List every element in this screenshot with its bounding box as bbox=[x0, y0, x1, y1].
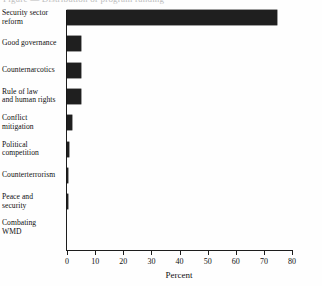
bar-row: Counternarcotics bbox=[0, 63, 322, 78]
category-label-line: WMD bbox=[2, 228, 64, 237]
bar bbox=[67, 89, 81, 104]
category-label: Rule of lawand human rights bbox=[2, 88, 64, 105]
bar bbox=[67, 142, 69, 157]
category-label: Security sectorreform bbox=[2, 9, 64, 26]
bar bbox=[67, 10, 277, 25]
x-tick bbox=[67, 250, 68, 255]
x-tick-label: 30 bbox=[141, 257, 161, 267]
category-label: CombatingWMD bbox=[2, 219, 64, 236]
x-tick bbox=[123, 250, 124, 255]
bar-row: Good governance bbox=[0, 36, 322, 51]
x-tick-label: 40 bbox=[170, 257, 190, 267]
x-tick bbox=[236, 250, 237, 255]
x-tick-label: 70 bbox=[254, 257, 274, 267]
category-label-line: Counterterrorism bbox=[2, 171, 64, 180]
category-label-line: reform bbox=[2, 18, 64, 27]
bar-row: Politicalcompetition bbox=[0, 142, 322, 157]
category-label: Good governance bbox=[2, 39, 64, 48]
x-tick bbox=[264, 250, 265, 255]
x-tick-label: 0 bbox=[57, 257, 77, 267]
x-tick bbox=[208, 250, 209, 255]
bar bbox=[67, 194, 68, 209]
bar-chart-figure: Figure — Distribution of program funding… bbox=[0, 0, 322, 286]
x-tick-label: 20 bbox=[113, 257, 133, 267]
clipped-caption-remnant: Figure — Distribution of program funding bbox=[0, 0, 322, 7]
x-tick-label: 80 bbox=[282, 257, 302, 267]
bar bbox=[67, 63, 81, 78]
category-label-line: security bbox=[2, 202, 64, 211]
x-tick-label: 10 bbox=[85, 257, 105, 267]
bar-row: Counterterrorism bbox=[0, 168, 322, 183]
bar-row: Peace andsecurity bbox=[0, 194, 322, 209]
bar-row: Rule of lawand human rights bbox=[0, 89, 322, 104]
x-tick bbox=[151, 250, 152, 255]
category-label: Politicalcompetition bbox=[2, 141, 64, 158]
x-axis-title: Percent bbox=[66, 270, 292, 281]
category-label-line: competition bbox=[2, 149, 64, 158]
plot-area: Security sectorreformGood governanceCoun… bbox=[0, 8, 322, 286]
category-label: Counterterrorism bbox=[2, 171, 64, 180]
bar-row: Conflictmitigation bbox=[0, 115, 322, 130]
category-label-line: mitigation bbox=[2, 123, 64, 132]
caption-remnant-text: Figure — Distribution of program funding bbox=[3, 0, 164, 4]
x-tick bbox=[95, 250, 96, 255]
bar-row: Security sectorreform bbox=[0, 10, 322, 25]
bar bbox=[67, 115, 72, 130]
bar bbox=[67, 168, 68, 183]
category-label-line: Counternarcotics bbox=[2, 66, 64, 75]
category-label: Counternarcotics bbox=[2, 66, 64, 75]
x-tick-label: 60 bbox=[226, 257, 246, 267]
category-label-line: Good governance bbox=[2, 39, 64, 48]
category-label-line: and human rights bbox=[2, 96, 64, 105]
category-label: Peace andsecurity bbox=[2, 193, 64, 210]
x-tick-label: 50 bbox=[198, 257, 218, 267]
bar bbox=[67, 36, 81, 51]
bar-row: CombatingWMD bbox=[0, 220, 322, 235]
category-label: Conflictmitigation bbox=[2, 114, 64, 131]
x-tick bbox=[292, 250, 293, 255]
x-tick bbox=[180, 250, 181, 255]
